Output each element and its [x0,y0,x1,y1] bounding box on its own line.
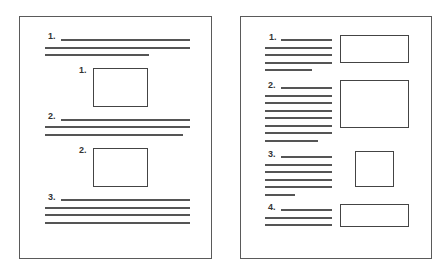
right-section-2-line [265,132,332,134]
left-section-1-line [45,54,149,56]
right-section-2-line [265,110,332,112]
right-section-4-line [281,209,332,211]
right-section-2-line [265,125,332,127]
right-section-2-number: 2. [268,81,276,90]
right-section-3-line [265,194,295,196]
right-section-2-line [265,140,318,142]
right-section-3-line [265,179,332,181]
left-section-1-number: 1. [48,32,56,41]
right-section-1-line [265,47,332,49]
right-section-1-line [265,62,332,64]
left-section-1-line [45,47,190,49]
right-section-3-line [265,186,332,188]
right-section-3-number: 3. [268,150,276,159]
right-section-2-figure [340,80,409,128]
right-section-2-line [265,102,332,104]
right-section-4-figure [340,204,409,227]
left-section-2-line [61,119,190,121]
right-section-2-line [281,87,332,89]
right-section-4-line [265,217,332,219]
left-section-3-line [61,199,190,201]
right-section-3-line [265,164,332,166]
left-section-2-line [45,126,190,128]
right-section-4-number: 4. [268,203,276,212]
right-section-4-line [265,224,332,226]
right-section-3-figure [355,151,394,187]
left-section-2-number: 2. [48,112,56,121]
left-section-1-line [61,39,190,41]
left-section-3-line [45,222,190,224]
right-section-1-figure [340,35,409,63]
left-figure-2-box [93,148,148,187]
right-section-1-line [281,39,332,41]
left-figure-1-number: 1. [79,66,87,75]
left-figure-2-number: 2. [79,146,87,155]
right-section-2-line [265,117,332,119]
left-figure-1-box [93,68,148,107]
left-section-3-number: 3. [48,193,56,202]
right-section-1-line [265,69,312,71]
left-section-2-line [45,134,183,136]
right-section-1-number: 1. [269,33,277,42]
right-section-1-line [265,54,332,56]
right-section-3-line [265,171,332,173]
right-section-3-line [281,156,332,158]
left-section-3-line [45,214,190,216]
left-section-3-line [45,207,190,209]
right-section-2-line [265,95,332,97]
